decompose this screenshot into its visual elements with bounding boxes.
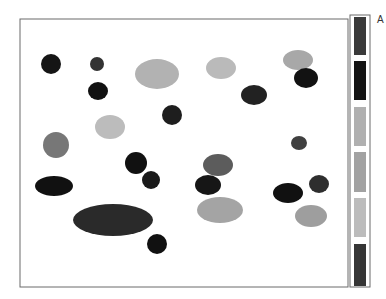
blob xyxy=(41,54,61,74)
blob xyxy=(273,183,303,203)
blob xyxy=(206,57,236,79)
legend-swatch xyxy=(354,198,366,237)
blob xyxy=(197,197,243,223)
blob xyxy=(291,136,307,150)
blob xyxy=(142,171,160,189)
legend-swatch xyxy=(354,17,366,55)
legend-swatch xyxy=(354,244,366,286)
blob xyxy=(125,152,147,174)
blob xyxy=(195,175,221,195)
legend-swatch xyxy=(354,61,366,100)
blob xyxy=(73,204,153,236)
blob xyxy=(90,57,104,71)
blob xyxy=(88,82,108,100)
blob xyxy=(135,59,179,89)
blob xyxy=(43,132,69,158)
blob xyxy=(35,176,73,196)
blob xyxy=(95,115,125,139)
blob xyxy=(295,205,327,227)
blob xyxy=(203,154,233,176)
blob xyxy=(283,50,313,70)
legend-strip xyxy=(350,15,370,287)
blob xyxy=(162,105,182,125)
blob xyxy=(241,85,267,105)
blob xyxy=(147,234,167,254)
blob xyxy=(309,175,329,193)
legend-swatch xyxy=(354,107,366,146)
panel-label: A xyxy=(377,14,384,25)
blob xyxy=(294,68,318,88)
legend-swatch xyxy=(354,152,366,192)
figure xyxy=(0,0,386,299)
